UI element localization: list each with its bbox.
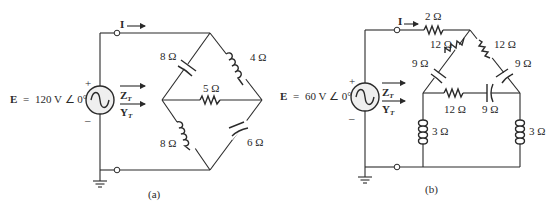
circuit-diagrams: + – E = 120 V ∠ 0° I ZT YT 8 Ω: [0, 0, 557, 210]
resistor-icon: [444, 89, 463, 97]
plus-sign: +: [349, 75, 355, 87]
ground-icon: [93, 181, 107, 187]
circuit-a: + – E = 120 V ∠ 0° I ZT YT 8 Ω: [10, 18, 266, 201]
caption-b: (b): [425, 183, 438, 196]
capacitor-icon: [430, 69, 446, 84]
source-label-e: E: [280, 90, 287, 102]
component-value: 5 Ω: [203, 82, 219, 94]
component-value: 6 Ω: [247, 136, 263, 148]
component-value: 2 Ω: [425, 10, 441, 22]
ac-source-icon: [86, 86, 114, 114]
equals-sign: =: [293, 90, 299, 102]
ac-source-icon: [351, 83, 379, 111]
terminal-node: [394, 164, 400, 170]
inductor-icon: [226, 53, 246, 85]
component-value: 9 Ω: [515, 57, 531, 69]
current-label: I: [398, 15, 402, 27]
inductor-icon: [520, 120, 525, 144]
resistor-icon: [478, 38, 492, 58]
component-value: 12 Ω: [444, 103, 466, 115]
minus-sign: –: [84, 114, 91, 126]
inductor-icon: [177, 122, 196, 150]
source-value: 60 V ∠ 0°: [305, 90, 352, 102]
plus-sign: +: [85, 77, 91, 89]
resistor-icon: [424, 26, 443, 34]
minus-sign: –: [348, 112, 355, 124]
inductor-icon: [516, 120, 521, 144]
component-value: 12 Ω: [430, 38, 452, 50]
equals-sign: =: [23, 93, 29, 105]
source-value: 120 V ∠ 0°: [35, 93, 87, 105]
component-value: 8 Ω: [160, 50, 176, 62]
component-value: 3 Ω: [529, 125, 545, 137]
component-value: 9 Ω: [482, 103, 498, 115]
resistor-icon: [200, 96, 220, 104]
admittance-label: YT: [120, 106, 133, 120]
current-label: I: [120, 18, 124, 30]
capacitor-icon: [229, 120, 248, 138]
source-label-e: E: [10, 93, 17, 105]
terminal-node: [394, 27, 400, 33]
ground-icon: [358, 177, 372, 183]
terminal-node: [114, 167, 120, 173]
terminal-node: [114, 30, 120, 36]
circuit-b: + – E = 60 V ∠ 0° I ZT YT 2 Ω 12 Ω: [280, 10, 545, 196]
impedance-label: ZT: [382, 86, 394, 100]
impedance-label: ZT: [120, 89, 132, 103]
component-value: 3 Ω: [432, 125, 448, 137]
caption-a: (a): [148, 188, 161, 201]
component-value: 8 Ω: [160, 137, 176, 149]
inductor-icon: [423, 120, 428, 144]
component-value: 4 Ω: [250, 51, 266, 63]
component-value: 9 Ω: [412, 57, 428, 69]
component-value: 12 Ω: [494, 38, 516, 50]
admittance-label: YT: [382, 103, 395, 117]
inductor-icon: [419, 120, 424, 144]
